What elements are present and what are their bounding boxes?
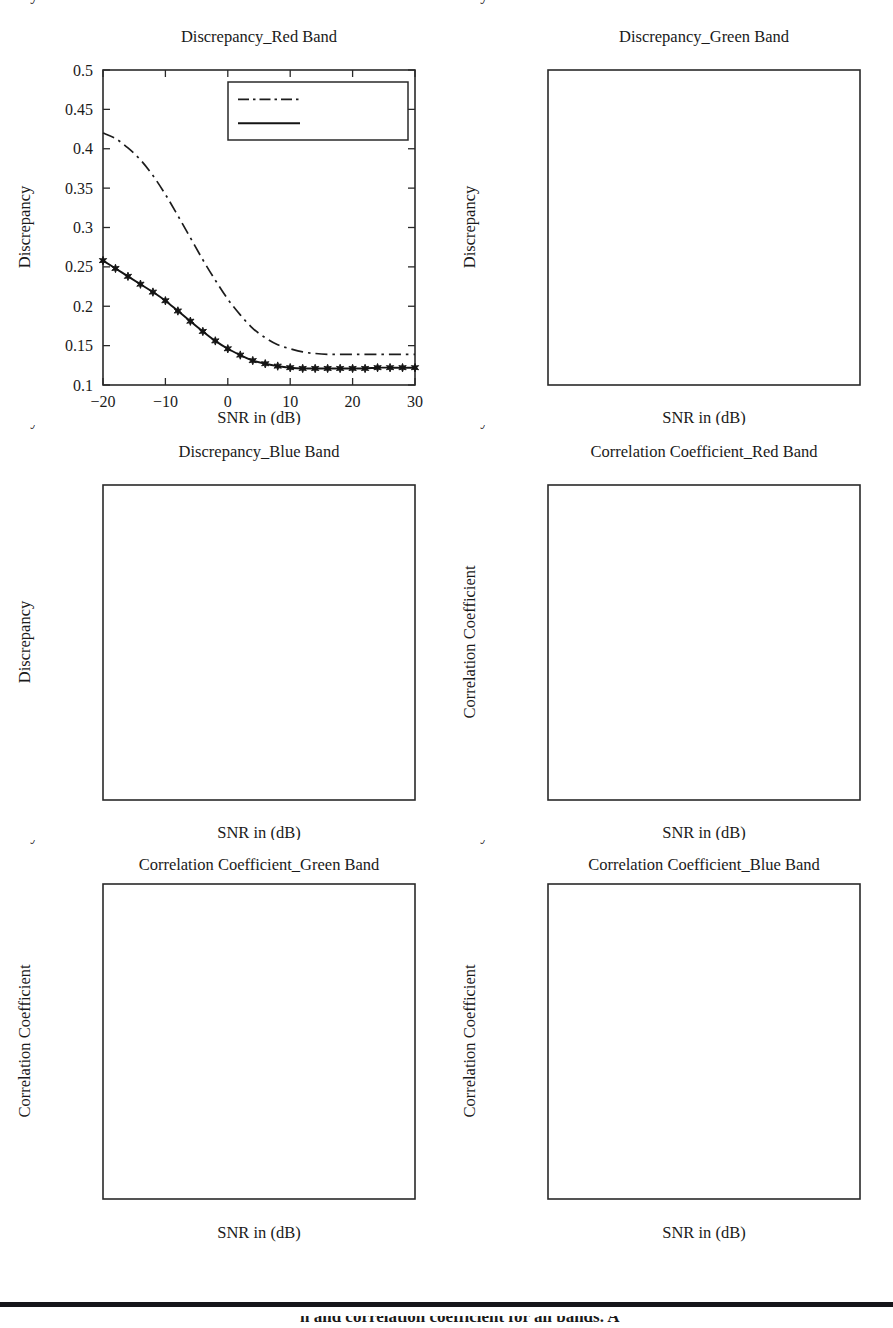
x-tick-label: 20 — [345, 393, 361, 410]
x-axis-title: SNR in (dB) — [217, 823, 300, 840]
y-tick-label: 0.4 — [73, 140, 93, 157]
chart-title: Correlation Coefficient_Blue Band — [588, 855, 820, 874]
y-axis-title: Discrepancy — [15, 185, 34, 268]
series-line-denoised — [103, 261, 415, 369]
axes-frame — [548, 70, 860, 385]
chart-title: Discrepancy_Red Band — [181, 27, 338, 46]
chart-discrepancy-green: Discrepancy_Green Band SNR in (dB) Discr… — [450, 0, 893, 425]
caption-clip: n and correlation coefficient for all ba… — [0, 1316, 893, 1328]
x-axis-title: SNR in (dB) — [662, 408, 745, 425]
legend-label-denoised: De-noised — [450, 840, 516, 843]
series-curves — [99, 133, 418, 373]
footer-rule — [0, 1302, 893, 1307]
data-point-marker — [112, 264, 119, 272]
y-axis-title: Correlation Coefficient — [460, 565, 479, 719]
y-axis-title: Discrepancy — [460, 185, 479, 268]
x-axis-title: SNR in (dB) — [217, 408, 300, 425]
y-tick-label: 0.35 — [65, 180, 93, 197]
x-axis-title: SNR in (dB) — [217, 1223, 300, 1242]
chart-correlation-red: Correlation Coefficient_Red Band SNR in … — [450, 425, 893, 840]
chart-correlation-blue: Correlation Coefficient_Blue Band SNR in… — [450, 840, 893, 1260]
y-tick-label: 0.3 — [73, 219, 93, 236]
data-point-marker — [224, 345, 231, 353]
legend: Noisy De-noised — [0, 840, 66, 844]
panel-discrepancy-red: Discrepancy_Red Band 0.10.150.20.250.30.… — [0, 0, 450, 425]
y-tick-label: 0.2 — [73, 298, 93, 315]
x-axis-title: SNR in (dB) — [662, 823, 745, 840]
axes-frame — [548, 884, 860, 1199]
data-point-marker — [124, 272, 131, 280]
legend: Noisy De-noised — [450, 840, 516, 844]
chart-title: Correlation Coefficient_Red Band — [591, 442, 819, 461]
chart-discrepancy-blue: Discrepancy_Blue Band SNR in (dB) Discre… — [0, 425, 450, 840]
chart-title: Discrepancy_Blue Band — [179, 442, 341, 461]
x-tick-label: 30 — [407, 393, 423, 410]
legend-label-denoised: De-noised — [0, 425, 66, 428]
y-axis-title: Correlation Coefficient — [460, 964, 479, 1118]
x-axis-title: SNR in (dB) — [662, 1223, 745, 1242]
panel-grid: Discrepancy_Red Band 0.10.150.20.250.30.… — [0, 0, 893, 1285]
plot-area — [103, 884, 415, 1199]
chart-correlation-green: Correlation Coefficient_Green Band SNR i… — [0, 840, 450, 1260]
y-tick-label: 0.25 — [65, 258, 93, 275]
legend: Noisy De-noised — [450, 425, 516, 429]
legend-label-denoised: De-noised — [450, 0, 516, 3]
plot-area — [548, 884, 860, 1199]
chart-title: Discrepancy_Green Band — [619, 27, 790, 46]
y-tick-label: 0.1 — [73, 377, 93, 394]
axes-frame — [103, 485, 415, 800]
data-point-marker — [149, 288, 156, 296]
y-tick-label: 0.5 — [73, 62, 93, 79]
y-tick-labels: 0.10.150.20.250.30.350.40.450.5 — [65, 62, 93, 394]
panel-correlation-red: Correlation Coefficient_Red Band SNR in … — [450, 425, 893, 840]
legend-label-denoised: De-noised — [0, 840, 66, 843]
axes-frame — [103, 884, 415, 1199]
legend-label-denoised: De-noised — [0, 0, 66, 3]
y-axis-title: Correlation Coefficient — [15, 964, 34, 1118]
plot-area — [548, 70, 860, 385]
y-axis-title: Discrepancy — [15, 600, 34, 683]
x-tick-label: −20 — [90, 393, 115, 410]
figure-caption-partial: n and correlation coefficient for all ba… — [300, 1316, 620, 1327]
legend-frame — [228, 82, 408, 140]
plot-area — [103, 485, 415, 800]
panel-correlation-green: Correlation Coefficient_Green Band SNR i… — [0, 840, 450, 1260]
legend-label-denoised: De-noised — [450, 425, 516, 428]
figure-sheet: Discrepancy_Red Band 0.10.150.20.250.30.… — [0, 0, 893, 1328]
chart-title: Correlation Coefficient_Green Band — [139, 855, 380, 874]
legend: Noisy De-noised — [0, 425, 66, 429]
chart-discrepancy-red: Discrepancy_Red Band 0.10.150.20.250.30.… — [0, 0, 450, 425]
panel-discrepancy-blue: Discrepancy_Blue Band SNR in (dB) Discre… — [0, 425, 450, 840]
plot-area — [548, 485, 860, 800]
legend: Noisy De-noised — [450, 0, 516, 4]
y-tick-label: 0.15 — [65, 337, 93, 354]
data-point-marker — [99, 256, 106, 264]
panel-discrepancy-green: Discrepancy_Green Band SNR in (dB) Discr… — [450, 0, 893, 425]
x-tick-label: −10 — [153, 393, 178, 410]
series-line-noisy — [103, 133, 415, 354]
axes-frame — [548, 485, 860, 800]
panel-correlation-blue: Correlation Coefficient_Blue Band SNR in… — [450, 840, 893, 1260]
y-tick-label: 0.45 — [65, 101, 93, 118]
data-point-marker — [137, 280, 144, 288]
data-point-marker — [237, 351, 244, 359]
